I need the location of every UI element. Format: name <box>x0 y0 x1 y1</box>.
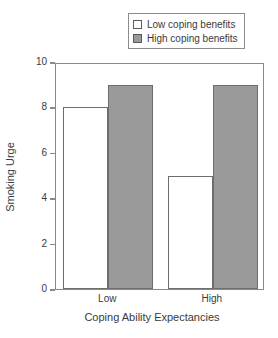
y-tick-label: 6 <box>41 147 47 158</box>
y-tick-label: 2 <box>41 238 47 249</box>
y-tick-label: 8 <box>41 101 47 112</box>
x-axis-ticks: LowHigh <box>55 290 264 308</box>
x-tick-label: Low <box>98 293 116 304</box>
x-axis-title-text: Coping Ability Expectancies <box>58 311 219 323</box>
x-axis-title: Coping Ability Expectancies <box>0 311 278 323</box>
legend-item-high-coping-benefits: High coping benefits <box>133 31 238 45</box>
plot-area <box>55 63 264 290</box>
y-axis-ticks: 0246810 <box>0 63 55 290</box>
chart-legend: Low coping benefits High coping benefits <box>128 13 245 49</box>
legend-label-high: High coping benefits <box>147 33 238 44</box>
bar-high-low-coping <box>168 176 213 290</box>
y-tick-label: 10 <box>36 56 47 67</box>
legend-label-low: Low coping benefits <box>147 19 235 30</box>
x-tick-label: High <box>201 293 222 304</box>
bars-layer <box>56 64 263 289</box>
y-tick-label: 4 <box>41 192 47 203</box>
bar-high-high-coping <box>213 85 258 289</box>
y-tick-label: 0 <box>41 283 47 294</box>
bar-low-high-coping <box>108 85 153 289</box>
legend-swatch-icon-high <box>133 34 142 43</box>
legend-swatch-icon-low <box>133 20 142 29</box>
bar-chart-figure: Low coping benefits High coping benefits… <box>0 0 278 338</box>
legend-item-low-coping-benefits: Low coping benefits <box>133 17 238 31</box>
bar-low-low-coping <box>63 107 108 289</box>
